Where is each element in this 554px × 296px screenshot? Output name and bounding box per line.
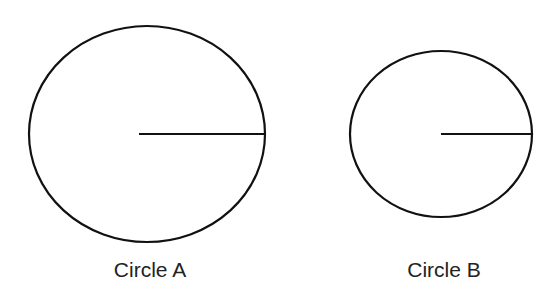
- circle-b-label: Circle B: [364, 258, 524, 282]
- circles-diagram: [0, 0, 554, 296]
- circle-a-label: Circle A: [70, 258, 230, 282]
